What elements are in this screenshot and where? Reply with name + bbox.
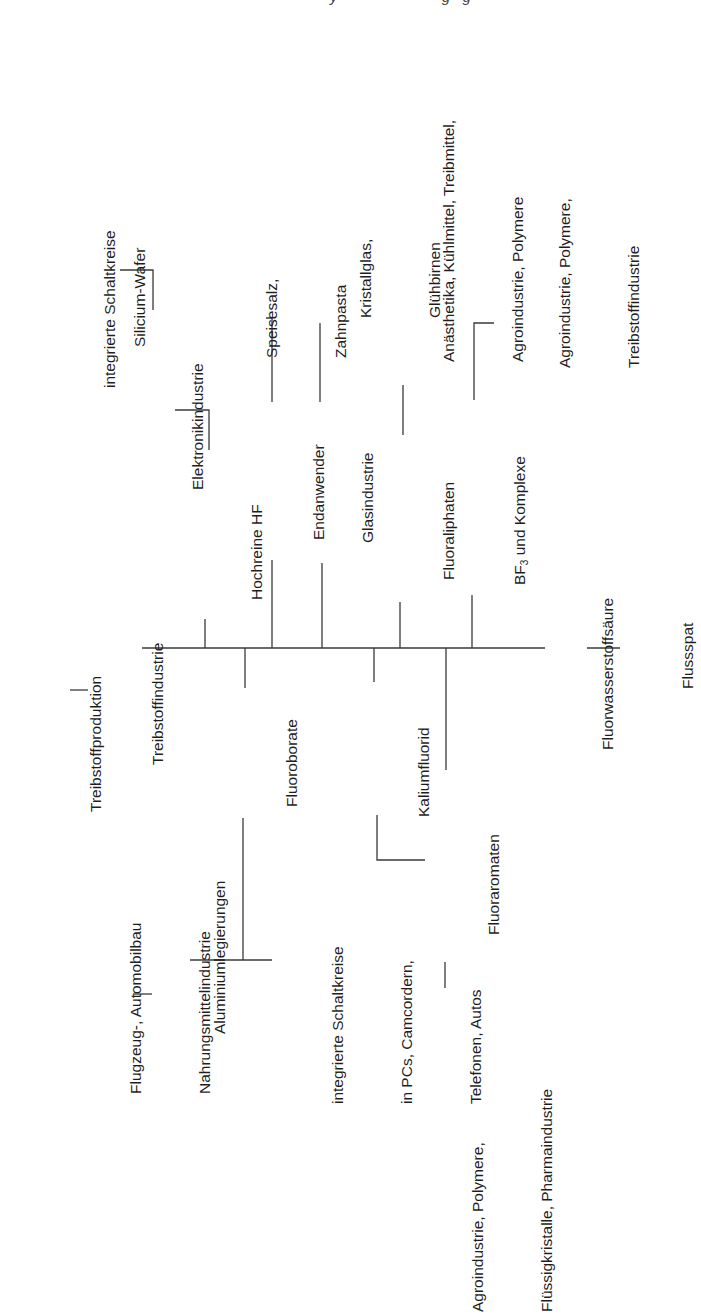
label-integrierte-pcs: integrierte Schaltkreise in PCs, Camcord… [280,946,533,1104]
label-fluorwasserstoffsaeure: Fluorwasserstoffsäure [550,598,665,750]
label-kaliumfluorid: Kaliumfluorid [366,727,481,817]
label-treibstoffproduktion: Treibstoffproduktion [38,676,153,812]
label-fluoraromaten: Fluoraromaten [436,834,551,935]
connector-kalium-hook [377,815,425,860]
label-fluoroborate: Fluoroborate [234,719,349,807]
label-flugzeug: Flugzeug-, Automobilbau Nahrungsmittelin… [78,923,262,1094]
label-integrierte-schaltkreise: integrierte Schaltkreise [52,230,167,388]
label-bf3-komplexe: BF3 und Komplexe [462,456,582,585]
label-bf3-uses: Agroindustrie, Polymere, Treibstoffindus… [507,198,691,368]
label-fluoraromaten-uses: Agroindustrie, Polymere, Flüssigkristall… [420,1089,604,1312]
